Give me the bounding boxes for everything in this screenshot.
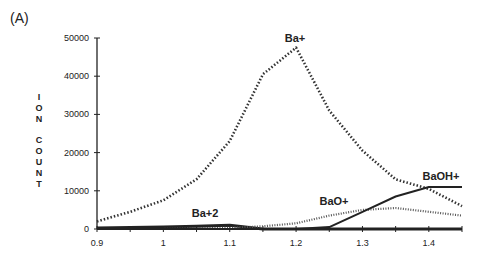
x-tick-label: 1.2 — [290, 238, 303, 248]
y-tick-label: 40000 — [64, 71, 89, 81]
series-labels: Ba+Ba+2BaO+BaOH+ — [192, 32, 460, 219]
series-label: BaO+ — [319, 195, 348, 207]
x-tick-label: 0.9 — [91, 238, 104, 248]
y-tick-label: 30000 — [64, 109, 89, 119]
series-lines — [97, 48, 462, 229]
y-tick-label: 20000 — [64, 148, 89, 158]
axes: 010000200003000040000500000.911.11.21.31… — [64, 33, 462, 248]
series-line-baplus — [97, 48, 462, 222]
series-line-baohplus — [97, 187, 462, 229]
x-tick-label: 1.1 — [223, 238, 236, 248]
chart: 010000200003000040000500000.911.11.21.31… — [0, 0, 485, 263]
series-label: Ba+2 — [192, 207, 219, 219]
y-tick-label: 10000 — [64, 186, 89, 196]
y-tick-label: 0 — [84, 224, 89, 234]
x-tick-label: 1.3 — [356, 238, 369, 248]
series-label: BaOH+ — [423, 170, 460, 182]
y-tick-label: 50000 — [64, 33, 89, 43]
x-tick-label: 1.4 — [423, 238, 436, 248]
x-tick-label: 1 — [161, 238, 166, 248]
series-label: Ba+ — [285, 32, 306, 44]
